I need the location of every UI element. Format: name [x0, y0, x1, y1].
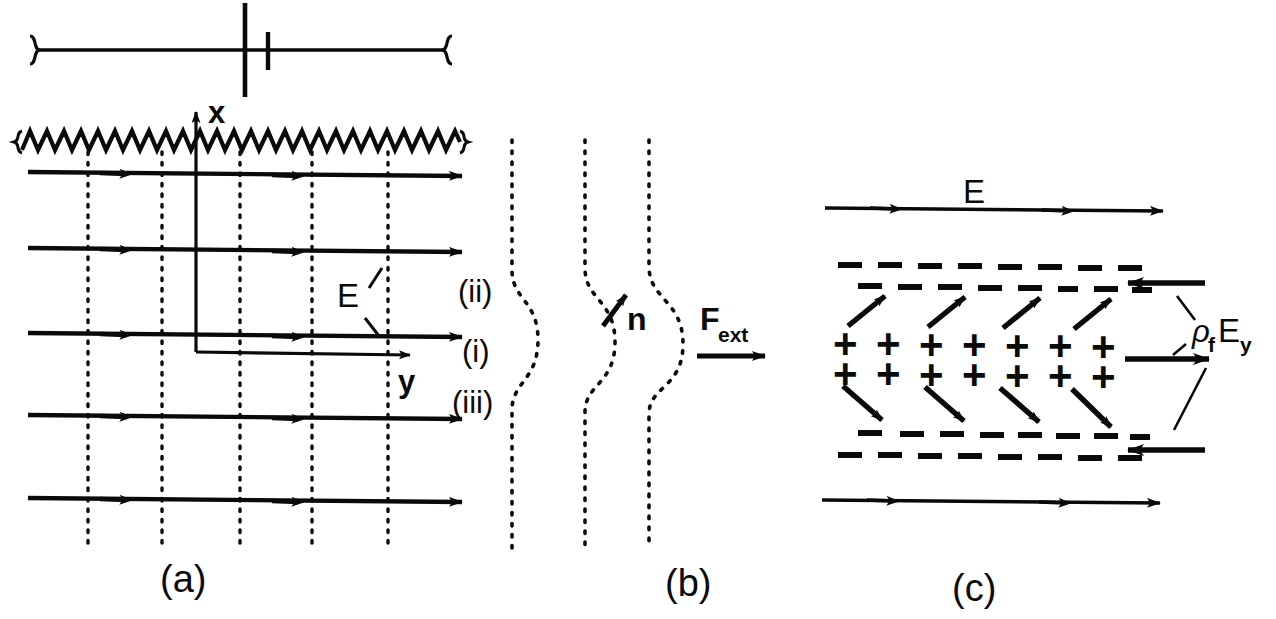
field-line-row-2 — [28, 248, 462, 252]
figure-canvas: x y E (ii) (i) (iii) (a) — [0, 0, 1276, 619]
leader-line-bottom — [1174, 368, 1206, 430]
x-axis-label: x — [208, 95, 226, 130]
ey-subscript-y: y — [1240, 333, 1252, 356]
field-lines-panel-a — [28, 172, 462, 502]
panel-c-bottom-field-line — [822, 500, 1160, 503]
plus-sign: + — [962, 351, 987, 398]
panel-a-group: x y E (ii) (i) (iii) (a) — [14, 95, 493, 600]
field-line-row-1 — [28, 172, 462, 176]
negative-charge-row-bottom-1 — [858, 433, 1150, 437]
panel-c-group: E — [822, 173, 1252, 609]
negative-charge-row-bottom-2 — [838, 455, 1142, 458]
zigzag-boundary — [14, 131, 468, 153]
normal-vector-label: n — [627, 301, 647, 337]
e-field-label: E — [337, 277, 359, 314]
force-label-subscript: ext — [718, 323, 748, 346]
interface-curve-2 — [585, 140, 615, 548]
ey-symbol: E — [1218, 312, 1240, 349]
field-line-row-5 — [28, 498, 462, 502]
top-dimension-bracket — [30, 3, 452, 97]
panel-b-group: n F ext (b) — [512, 140, 765, 604]
zigzag-right-curly — [460, 131, 468, 153]
field-line-row-4 — [28, 415, 462, 419]
negative-charge-row-top-2 — [858, 286, 1152, 290]
y-axis-line — [196, 352, 410, 355]
plus-sign: + — [1005, 352, 1030, 399]
dotted-vertical-lines — [88, 152, 388, 548]
rho-symbol: ρ — [1191, 314, 1210, 349]
plus-sign: + — [1091, 353, 1116, 400]
plus-sign: + — [1048, 352, 1073, 399]
leader-line-middle — [1173, 344, 1186, 355]
interface-curve-1 — [512, 140, 538, 548]
negative-charge-row-top-1 — [838, 265, 1142, 268]
interface-curve-3 — [649, 140, 683, 548]
panel-a-field-label-group: E — [337, 268, 382, 336]
normal-vector-group: n — [603, 295, 647, 337]
region-label-ii: (ii) — [458, 274, 492, 309]
y-axis-label: y — [398, 364, 416, 399]
panel-a-region-labels: (ii) (i) (iii) — [452, 274, 493, 420]
e-label-tick-upper — [369, 268, 382, 288]
plus-sign: + — [876, 350, 901, 397]
rho-subscript-f: f — [1208, 333, 1216, 356]
zigzag-left-curly — [14, 131, 22, 153]
region-label-i: (i) — [462, 334, 490, 369]
bracket-left-curly — [30, 36, 40, 64]
e-label-tick-lower — [365, 318, 379, 336]
panel-c-top-field-line — [825, 208, 1163, 211]
bracket-right-curly — [442, 36, 452, 64]
panel-b-caption: (b) — [665, 562, 711, 604]
panel-c-e-field-label: E — [963, 173, 985, 210]
physics-figure: x y E (ii) (i) (iii) (a) — [0, 0, 1276, 619]
region-label-iii: (iii) — [452, 385, 493, 420]
boundary-force-arrows: ρ f E y — [1125, 283, 1252, 450]
field-line-row-3 — [28, 333, 462, 337]
force-label-base: F — [700, 301, 720, 337]
panel-a-caption: (a) — [160, 558, 206, 600]
zigzag-polyline — [22, 131, 460, 150]
external-force-group: F ext — [697, 301, 765, 356]
panel-c-caption: (c) — [952, 567, 996, 609]
